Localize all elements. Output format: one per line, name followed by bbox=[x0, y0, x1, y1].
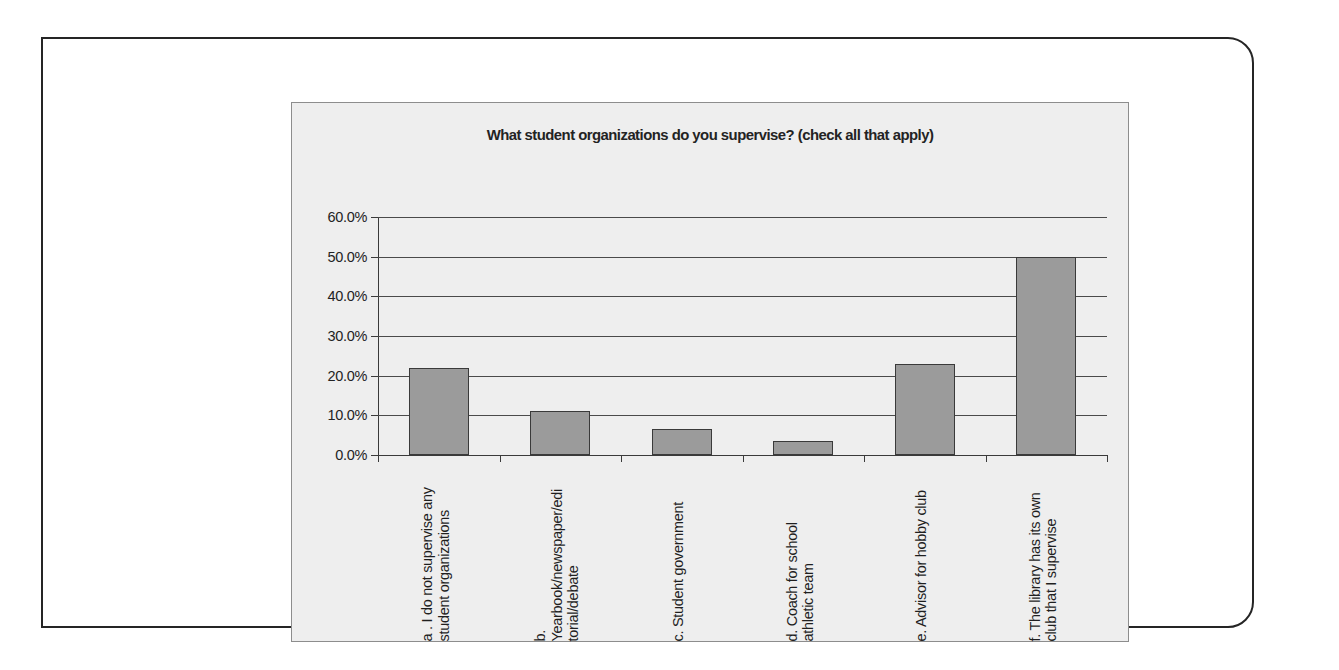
x-axis-tick bbox=[743, 455, 744, 462]
gridline bbox=[378, 257, 1107, 258]
bar bbox=[773, 441, 833, 455]
x-axis-category-label: f. The library has its own bbox=[1026, 492, 1043, 641]
y-axis-tick bbox=[371, 336, 378, 337]
gridline bbox=[378, 296, 1107, 297]
y-axis-label: 0.0% bbox=[335, 447, 367, 463]
y-axis-tick bbox=[371, 376, 378, 377]
x-axis-tick bbox=[621, 455, 622, 462]
bar bbox=[409, 368, 469, 455]
x-axis-tick bbox=[500, 455, 501, 462]
x-axis-category-label: b. bbox=[532, 630, 549, 642]
y-axis-label: 50.0% bbox=[327, 249, 367, 265]
y-axis-label: 40.0% bbox=[327, 288, 367, 304]
x-axis-category-label: c. Student government bbox=[670, 502, 687, 642]
chart-panel: What student organizations do you superv… bbox=[291, 102, 1129, 642]
x-axis-tick bbox=[378, 455, 379, 462]
y-axis-tick bbox=[371, 296, 378, 297]
x-axis-category-label: athletic team bbox=[800, 563, 817, 641]
gridline bbox=[378, 415, 1107, 416]
x-axis-category-label: e. Advisor for hobby club bbox=[913, 490, 930, 641]
scanned-page-frame: What student organizations do you superv… bbox=[41, 37, 1254, 628]
gridline bbox=[378, 217, 1107, 218]
x-axis-category-label: Yearbook/newspaper/edi bbox=[548, 489, 565, 641]
x-axis-tick bbox=[864, 455, 865, 462]
bar bbox=[1016, 257, 1076, 455]
y-axis-tick bbox=[371, 217, 378, 218]
y-axis-label: 60.0% bbox=[327, 209, 367, 225]
chart-title: What student organizations do you superv… bbox=[309, 126, 1112, 144]
y-axis-tick bbox=[371, 455, 378, 456]
x-axis-tick bbox=[986, 455, 987, 462]
y-axis-label: 20.0% bbox=[327, 368, 367, 384]
x-axis-category-label: student organizations bbox=[435, 510, 452, 642]
y-axis-label: 30.0% bbox=[327, 328, 367, 344]
bar bbox=[895, 364, 955, 455]
y-axis-label: 10.0% bbox=[327, 407, 367, 423]
bar bbox=[652, 429, 712, 455]
y-axis-tick bbox=[371, 257, 378, 258]
gridline bbox=[378, 336, 1107, 337]
x-axis-category-label: club that I supervise bbox=[1043, 519, 1060, 642]
x-axis-tick bbox=[1107, 455, 1108, 462]
plot-area: 60.0%50.0%40.0%30.0%20.0%10.0%0.0% bbox=[378, 217, 1107, 455]
bar bbox=[530, 411, 590, 455]
y-axis-tick bbox=[371, 415, 378, 416]
x-axis-category-label: d. Coach for school bbox=[783, 522, 800, 641]
x-axis-category-label: torial/debate bbox=[565, 566, 582, 642]
gridline bbox=[378, 376, 1107, 377]
x-axis-category-label: a . I do not supervise any bbox=[419, 487, 436, 641]
